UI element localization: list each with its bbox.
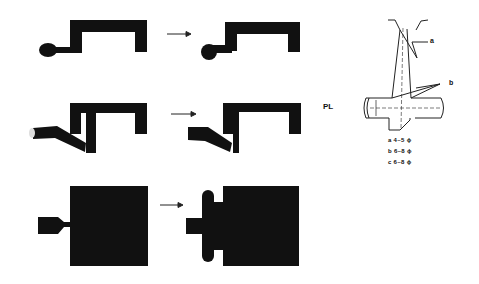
parting-line-label: PL (323, 102, 333, 111)
row2-arrow (171, 112, 196, 117)
legend-c: c 6~8 ϕ (388, 159, 411, 165)
row1-arrow (167, 32, 191, 37)
row3-after-part (186, 186, 299, 266)
row1-after-part (201, 22, 300, 60)
row3-arrow (160, 203, 183, 208)
callout-a-label: a (430, 37, 434, 44)
legend-b: b 6~8 ϕ (388, 148, 412, 154)
row1-before-part (39, 20, 147, 57)
row2-after-part (188, 103, 301, 153)
row3-before-part (38, 186, 148, 266)
callout-b-label: b (449, 79, 453, 86)
row2-before-part (29, 103, 147, 153)
legend-a: a 4~5 ϕ (388, 137, 411, 143)
